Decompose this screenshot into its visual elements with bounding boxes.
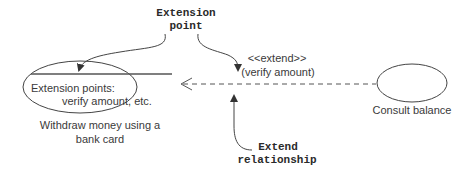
callout-arrow-to-compartment bbox=[79, 34, 165, 70]
withdraw-name-line1: Withdraw money using a bbox=[40, 119, 161, 131]
use-case-withdraw: Extension points: verify amount, etc. Wi… bbox=[23, 61, 172, 145]
use-case-consult-balance: Consult balance bbox=[373, 64, 452, 116]
consult-name: Consult balance bbox=[373, 104, 452, 116]
extend-relationship: <<extend>> (verify amount) bbox=[181, 52, 376, 90]
extend-relationship-label-line1: Extend bbox=[258, 141, 298, 153]
extension-point-callout: Extension point bbox=[79, 7, 238, 70]
withdraw-name-line2: bank card bbox=[76, 133, 124, 145]
extension-points-title: Extension points: bbox=[31, 82, 115, 94]
consult-ellipse bbox=[377, 64, 447, 102]
extend-relationship-callout: Extend relationship bbox=[234, 96, 317, 166]
use-case-diagram: Extension point Extension points: verify… bbox=[0, 0, 471, 177]
extension-point-label-line1: Extension bbox=[156, 7, 215, 19]
extension-point-label-line2: point bbox=[169, 20, 202, 32]
callout-arrow-to-extend-label bbox=[198, 34, 238, 70]
extension-points-value: verify amount, etc. bbox=[62, 95, 152, 107]
callout-arrow-to-dashed-line bbox=[234, 96, 252, 150]
extend-relationship-label-line2: relationship bbox=[237, 154, 317, 166]
extend-condition: (verify amount) bbox=[241, 66, 314, 78]
extend-stereotype: <<extend>> bbox=[248, 52, 307, 64]
